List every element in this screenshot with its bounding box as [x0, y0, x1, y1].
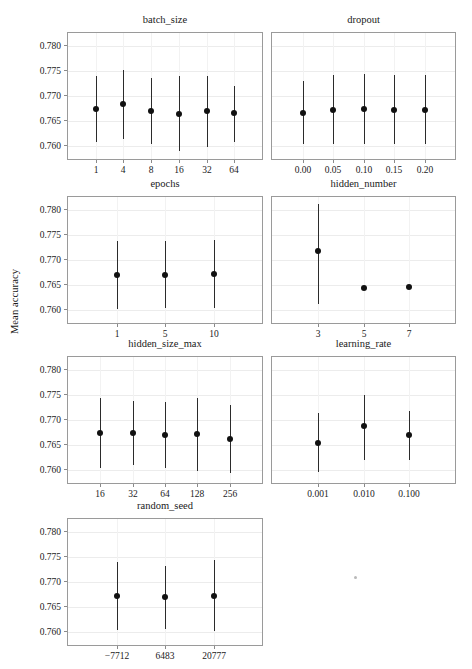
gridline-horizontal [68, 96, 262, 97]
y-tick-label: 0.765 [27, 116, 61, 126]
y-tick-label: 0.775 [27, 66, 61, 76]
x-tick-label: −7712 [105, 651, 129, 661]
x-tick-label: 16 [95, 489, 105, 499]
y-tick-label: 0.760 [27, 305, 61, 315]
data-point [361, 423, 367, 429]
gridline-vertical [409, 197, 410, 323]
x-tick-label: 64 [160, 489, 170, 499]
data-point [406, 432, 412, 438]
data-point [227, 436, 233, 442]
x-tick-label: 0.20 [417, 165, 434, 175]
y-tick-label: 0.775 [27, 552, 61, 562]
x-tick-mark [123, 160, 124, 163]
y-tick-label: 0.775 [27, 230, 61, 240]
data-point [361, 285, 367, 291]
x-tick-label: 6483 [156, 651, 175, 661]
x-tick-label: 128 [190, 489, 204, 499]
y-tick-label: 0.770 [27, 91, 61, 101]
x-tick-mark [230, 484, 231, 487]
y-tick-label: 0.770 [27, 577, 61, 587]
x-tick-mark [117, 646, 118, 649]
panel-title: hidden_size_max [67, 338, 263, 350]
data-point [93, 106, 99, 112]
x-tick-label: 4 [121, 165, 126, 175]
x-tick-label: 256 [223, 489, 237, 499]
x-tick-mark [133, 484, 134, 487]
x-tick-mark [151, 160, 152, 163]
x-tick-label: 0.010 [353, 489, 374, 499]
x-tick-mark [409, 484, 410, 487]
y-tick-mark [64, 70, 67, 71]
x-tick-mark [214, 646, 215, 649]
x-tick-mark [364, 160, 365, 163]
x-tick-mark [96, 160, 97, 163]
y-tick-mark [64, 631, 67, 632]
x-tick-mark [425, 160, 426, 163]
x-tick-label: 0.10 [356, 165, 373, 175]
x-tick-mark [165, 324, 166, 327]
x-tick-label: 32 [128, 489, 138, 499]
y-tick-mark [64, 259, 67, 260]
panel-batch_size: batch_size0.7600.7650.7700.7750.78014816… [67, 14, 263, 182]
x-tick-mark [318, 484, 319, 487]
x-tick-label: 0.05 [325, 165, 342, 175]
x-tick-mark [165, 484, 166, 487]
data-point [148, 108, 154, 114]
x-tick-label: 1 [94, 165, 99, 175]
y-tick-mark [64, 606, 67, 607]
y-tick-label: 0.765 [27, 280, 61, 290]
plot-area [271, 32, 456, 160]
x-tick-mark [165, 646, 166, 649]
panel-title: hidden_number [271, 178, 456, 190]
data-point [120, 101, 126, 107]
data-point [114, 272, 120, 278]
x-tick-label: 64 [229, 165, 239, 175]
y-tick-mark [64, 469, 67, 470]
x-tick-mark [303, 160, 304, 163]
y-tick-label: 0.780 [27, 205, 61, 215]
data-point [176, 111, 182, 117]
figure-canvas: Mean accuracy batch_size0.7600.7650.7700… [0, 0, 472, 669]
x-tick-label: 0.15 [386, 165, 403, 175]
panel-title: learning_rate [271, 338, 456, 350]
x-tick-mark [214, 324, 215, 327]
data-point [406, 284, 412, 290]
panel-dropout: dropout0.000.050.100.150.20 [271, 14, 456, 182]
x-tick-label: 8 [149, 165, 154, 175]
plot-area [67, 196, 263, 324]
x-tick-label: 0.100 [398, 489, 419, 499]
gridline-horizontal [68, 46, 262, 47]
data-point [330, 107, 336, 113]
gridline-horizontal [68, 146, 262, 147]
y-tick-mark [64, 581, 67, 582]
y-axis-label: Mean accuracy [9, 242, 20, 362]
x-tick-label: 0.00 [295, 165, 312, 175]
y-tick-label: 0.775 [27, 390, 61, 400]
data-point [361, 106, 367, 112]
data-point [194, 431, 200, 437]
y-tick-mark [64, 234, 67, 235]
panel-title: dropout [271, 14, 456, 26]
data-point [231, 110, 237, 116]
plot-area [67, 32, 263, 160]
y-tick-mark [64, 145, 67, 146]
data-point [211, 593, 217, 599]
data-point [422, 107, 428, 113]
panel-learning_rate: learning_rate0.0010.0100.100 [271, 338, 456, 506]
y-tick-mark [64, 209, 67, 210]
y-tick-label: 0.780 [27, 527, 61, 537]
panel-hidden_size_max: hidden_size_max0.7600.7650.7700.7750.780… [67, 338, 263, 506]
y-tick-label: 0.780 [27, 365, 61, 375]
stray-speck [354, 576, 357, 579]
panel-random_seed: random_seed0.7600.7650.7700.7750.780−771… [67, 500, 263, 668]
y-tick-mark [64, 369, 67, 370]
y-tick-label: 0.760 [27, 627, 61, 637]
panel-epochs: epochs0.7600.7650.7700.7750.7801510 [67, 178, 263, 346]
x-tick-mark [394, 160, 395, 163]
gridline-horizontal [68, 71, 262, 72]
x-tick-label: 32 [202, 165, 212, 175]
x-tick-mark [234, 160, 235, 163]
data-point [162, 432, 168, 438]
data-point [130, 430, 136, 436]
plot-area [67, 518, 263, 646]
